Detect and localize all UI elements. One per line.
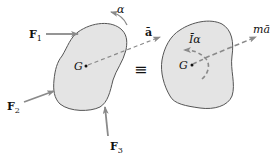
alpha-label: α (117, 3, 125, 16)
right-body: G Īα mā (161, 21, 270, 108)
left-g-label: G (74, 60, 83, 73)
rigid-body-kinetics-diagram: G ā α F1 F2 F3 ≡ G Īα mā (0, 0, 275, 161)
force-f1-label: F1 (29, 28, 42, 43)
left-body: G ā α F1 F2 F3 (7, 3, 160, 155)
right-g-label: G (179, 59, 188, 72)
force-f3-label: F3 (110, 140, 123, 155)
equivalence-symbol: ≡ (134, 60, 147, 79)
force-f2-arrow (24, 91, 54, 102)
left-body-shape (54, 23, 127, 110)
inertia-force-label: mā (253, 23, 270, 36)
acceleration-label: ā (145, 26, 152, 39)
moment-label: Īα (188, 33, 201, 46)
left-center-of-mass-dot (85, 65, 88, 68)
force-f2-label: F2 (7, 100, 20, 115)
force-f3-arrow (105, 107, 108, 136)
